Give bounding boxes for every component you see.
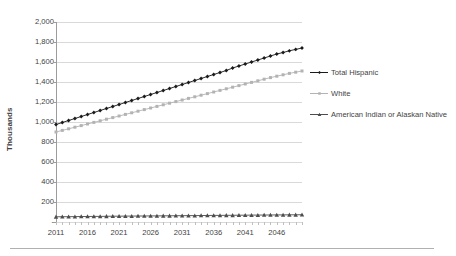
data-point-marker — [105, 107, 109, 111]
chart-figure: Thousands 2,0001,8001,6001,4001,2001,000… — [0, 0, 456, 256]
x-tickmark — [69, 222, 70, 225]
data-point-marker — [118, 115, 121, 118]
data-point-marker — [168, 87, 172, 91]
x-tickmark — [144, 222, 145, 225]
data-point-marker — [155, 105, 158, 108]
data-point-marker — [181, 99, 184, 102]
x-tickmark — [195, 222, 196, 225]
data-point-marker — [67, 119, 71, 123]
legend-marker-icon — [310, 68, 328, 77]
legend-point-icon — [317, 69, 322, 76]
series-lines — [56, 22, 302, 222]
legend-point-icon — [317, 111, 322, 118]
data-point-marker — [111, 116, 114, 119]
x-tickmark — [258, 222, 259, 225]
data-point-marker — [237, 64, 241, 68]
x-tickmark — [119, 222, 120, 225]
x-tickmark — [201, 222, 202, 225]
y-tick-label: 800 — [10, 138, 54, 146]
data-point-marker — [218, 71, 222, 75]
data-point-marker — [262, 56, 266, 60]
x-tickmark — [94, 222, 95, 225]
data-point-marker — [67, 127, 70, 130]
data-point-marker — [99, 119, 102, 122]
data-point-marker — [275, 75, 278, 78]
x-tickmark — [132, 222, 133, 225]
x-tickmark — [176, 222, 177, 225]
y-tick-label: 1,200 — [10, 98, 54, 106]
legend-item-label: White — [331, 89, 350, 98]
data-point-marker — [212, 73, 216, 77]
x-tickmark — [188, 222, 189, 225]
data-point-marker — [162, 103, 165, 106]
data-point-marker — [92, 121, 95, 124]
data-point-marker — [117, 103, 121, 107]
x-tickmark — [270, 222, 271, 225]
data-point-marker — [60, 121, 64, 125]
x-tickmark — [106, 222, 107, 225]
data-point-marker — [301, 70, 304, 73]
x-tick-label: 2031 — [174, 228, 191, 237]
x-tickmark — [157, 222, 158, 225]
data-point-marker — [180, 83, 184, 87]
data-point-marker — [250, 60, 254, 64]
x-tickmark — [220, 222, 221, 225]
x-tick-label: 2026 — [142, 228, 159, 237]
data-point-marker — [168, 102, 171, 105]
data-point-marker — [155, 91, 159, 95]
x-tickmark — [277, 222, 278, 225]
plot-area — [56, 22, 302, 222]
legend-item[interactable]: Total Hispanic — [310, 62, 454, 83]
data-point-marker — [142, 95, 146, 99]
data-point-marker — [281, 51, 285, 55]
x-tickmark — [81, 222, 82, 225]
data-point-marker — [130, 99, 134, 103]
data-point-marker — [256, 79, 259, 82]
x-tickmark — [289, 222, 290, 225]
legend-item[interactable]: White — [310, 83, 454, 104]
series-group — [54, 46, 304, 126]
data-point-marker — [205, 75, 209, 79]
data-point-marker — [174, 85, 178, 89]
x-tick-label: 2041 — [237, 228, 254, 237]
x-tickmark — [88, 222, 89, 225]
data-point-marker — [294, 71, 297, 74]
y-tick-label: 1,000 — [10, 118, 54, 126]
y-tick-label: 2,000 — [10, 18, 54, 26]
x-tickmark — [125, 222, 126, 225]
legend-marker-icon — [310, 89, 328, 98]
data-point-marker — [250, 81, 253, 84]
x-tick-label: 2036 — [205, 228, 222, 237]
data-point-marker — [61, 129, 64, 132]
legend-item[interactable]: American Indian or Alaskan Native — [310, 104, 454, 125]
y-axis-tick-labels: 2,0001,8001,6001,4001,2001,0008006004002… — [8, 0, 54, 256]
data-point-marker — [187, 97, 190, 100]
series-group — [55, 70, 304, 134]
data-point-marker — [318, 92, 321, 95]
data-point-marker — [98, 109, 102, 113]
data-point-marker — [149, 107, 152, 110]
data-point-marker — [86, 113, 90, 117]
x-tick-label: 2021 — [111, 228, 128, 237]
x-tickmark — [252, 222, 253, 225]
y-tick-label: - — [10, 218, 54, 226]
x-tickmark — [296, 222, 297, 225]
x-tick-label: 2011 — [48, 228, 64, 237]
x-tickmark — [233, 222, 234, 225]
data-point-marker — [275, 52, 279, 56]
x-tickmark — [62, 222, 63, 225]
data-point-marker — [225, 87, 228, 90]
data-point-marker — [231, 86, 234, 89]
x-tickmark — [226, 222, 227, 225]
x-tickmark — [302, 222, 303, 225]
data-point-marker — [263, 78, 266, 81]
data-point-marker — [193, 79, 197, 83]
legend-item-label: American Indian or Alaskan Native — [331, 110, 447, 119]
x-tickmark — [207, 222, 208, 225]
data-point-marker — [73, 126, 76, 129]
data-point-marker — [105, 118, 108, 121]
data-point-marker — [244, 83, 247, 86]
y-tick-label: 1,800 — [10, 38, 54, 46]
data-point-marker — [212, 91, 215, 94]
data-point-marker — [219, 89, 222, 92]
